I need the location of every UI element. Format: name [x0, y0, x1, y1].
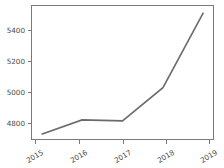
y-tick-label-5000: 5000: [7, 88, 26, 97]
chart-page: 5400 5200 5000 4800 2015 2016 2017 2018 …: [0, 0, 224, 168]
y-axis-ticks: [28, 31, 32, 124]
y-axis-labels: 5400 5200 5000 4800: [7, 26, 26, 128]
y-tick-label-4800: 4800: [7, 119, 26, 128]
x-axis-ticks: [36, 140, 210, 144]
x-tick-label-2019: 2019: [199, 148, 220, 165]
x-tick-label-2018: 2018: [156, 148, 177, 165]
data-series-line: [42, 13, 204, 135]
x-tick-label-2016: 2016: [69, 148, 90, 165]
line-chart: 5400 5200 5000 4800 2015 2016 2017 2018 …: [0, 0, 224, 168]
x-axis-labels: 2015 2016 2017 2018 2019: [25, 148, 220, 165]
plot-frame: [32, 6, 214, 140]
y-tick-label-5400: 5400: [7, 26, 26, 35]
x-tick-label-2015: 2015: [25, 148, 45, 165]
x-tick-label-2017: 2017: [113, 148, 133, 165]
y-tick-label-5200: 5200: [7, 57, 26, 66]
